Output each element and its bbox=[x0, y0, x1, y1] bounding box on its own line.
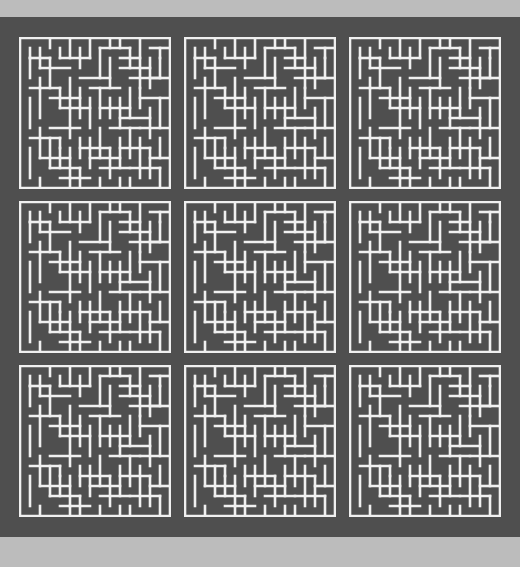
tile-r2c2 bbox=[177, 195, 342, 359]
tile-r2c1-maze bbox=[19, 201, 171, 353]
maze-figure-panel bbox=[0, 17, 520, 537]
tile-r1c2 bbox=[177, 31, 342, 195]
tile-r1c2-maze bbox=[184, 37, 336, 189]
bottom-margin-band bbox=[0, 537, 520, 567]
tile-r3c2 bbox=[177, 359, 342, 523]
tile-r3c2-maze bbox=[184, 365, 336, 517]
tile-r3c1-maze bbox=[19, 365, 171, 517]
maze-tile-grid bbox=[0, 17, 520, 537]
figure-canvas bbox=[0, 0, 520, 567]
tile-r3c3-maze bbox=[349, 365, 501, 517]
tile-r2c1 bbox=[12, 195, 177, 359]
top-margin-band bbox=[0, 0, 520, 17]
tile-r1c1-maze bbox=[19, 37, 171, 189]
tile-r2c3-maze bbox=[349, 201, 501, 353]
tile-r2c2-maze bbox=[184, 201, 336, 353]
tile-r1c1 bbox=[12, 31, 177, 195]
tile-r2c3 bbox=[343, 195, 508, 359]
tile-r3c3 bbox=[343, 359, 508, 523]
tile-r1c3-maze bbox=[349, 37, 501, 189]
tile-r3c1 bbox=[12, 359, 177, 523]
tile-r1c3 bbox=[343, 31, 508, 195]
